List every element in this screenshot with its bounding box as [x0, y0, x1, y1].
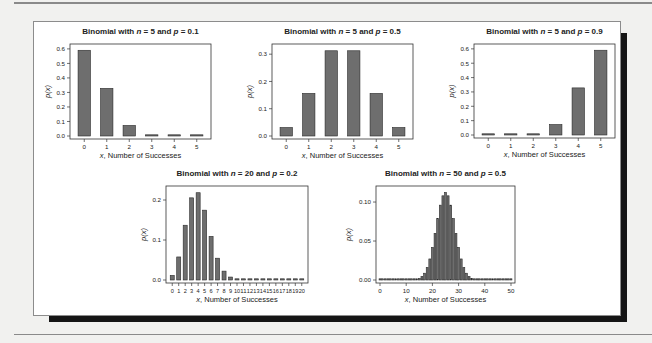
x-tick-label: 20 [429, 287, 436, 294]
bar [397, 279, 399, 280]
bar [458, 247, 460, 280]
bar [416, 279, 418, 280]
bar [403, 279, 405, 280]
bar [418, 278, 420, 280]
bar [429, 259, 431, 280]
bar [505, 279, 507, 280]
bar [424, 273, 426, 280]
bar [455, 233, 457, 280]
bar [434, 233, 436, 280]
x-axis-text: , Number of Successes [409, 295, 487, 304]
bar [413, 279, 415, 280]
bar [473, 279, 475, 280]
bar [439, 205, 441, 280]
bar [468, 277, 470, 280]
x-tick-label: 50 [508, 287, 515, 294]
bar [510, 279, 512, 280]
bar [476, 279, 478, 280]
bar [492, 279, 494, 280]
x-tick-label: 0 [378, 287, 382, 294]
bar [421, 277, 423, 280]
bar [466, 273, 468, 280]
bar [460, 259, 462, 280]
bar [382, 279, 384, 280]
bar [471, 278, 473, 280]
bar [411, 279, 413, 280]
chart-plot: 0.000.050.10p(x)01020304050 [0, 0, 652, 343]
bar [426, 268, 428, 280]
bar [481, 279, 483, 280]
bar [442, 196, 444, 280]
bar [479, 279, 481, 280]
bar [452, 219, 454, 280]
chart-binomial-n50-p05: Binomial with n = 50 and p = 0.50.000.05… [0, 0, 652, 343]
bar [500, 279, 502, 280]
bar [447, 196, 449, 280]
bar [392, 279, 394, 280]
bar [379, 279, 381, 280]
x-tick-label: 10 [403, 287, 410, 294]
x-axis-label: x, Number of Successes [356, 295, 535, 304]
bar [390, 279, 392, 280]
bar [408, 279, 410, 280]
bar [494, 279, 496, 280]
y-tick-label: 0.05 [359, 237, 372, 244]
bar [437, 219, 439, 280]
bar [507, 279, 509, 280]
y-axis-label: p(x) [344, 228, 353, 242]
x-tick-label: 40 [481, 287, 488, 294]
bar [395, 279, 397, 280]
bar [384, 279, 386, 280]
bar [486, 279, 488, 280]
bar [450, 205, 452, 280]
bar [445, 192, 447, 280]
bar [387, 279, 389, 280]
x-tick-label: 30 [455, 287, 462, 294]
bar [431, 247, 433, 280]
bar [502, 279, 504, 280]
y-tick-label: 0.00 [359, 276, 372, 283]
bar [405, 279, 407, 280]
bar [484, 279, 486, 280]
bar [400, 279, 402, 280]
bar [497, 279, 499, 280]
y-tick-label: 0.10 [359, 198, 372, 205]
bar [489, 279, 491, 280]
bar [463, 268, 465, 280]
